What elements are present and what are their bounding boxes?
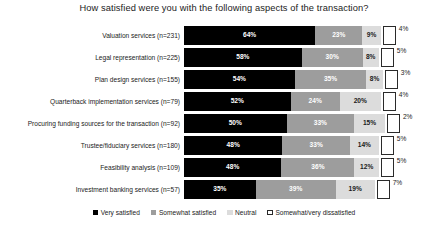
segment-value-label: 14% (358, 142, 371, 149)
segment-value-label: 54% (233, 76, 246, 83)
segment-very-satisfied: 58% (184, 48, 302, 67)
segment-value-label-dissatisfied: 3% (398, 70, 411, 89)
chart-title: How satisfied were you with the followin… (0, 3, 448, 13)
segment-somewhat-satisfied: 23% (315, 26, 362, 45)
category-label: Valuation services (n=231) (0, 32, 184, 39)
segment-very-satisfied: 50% (184, 114, 287, 133)
segment-value-label: 19% (349, 186, 362, 193)
segment-value-label: 8% (370, 76, 380, 83)
segment-very-satisfied: 35% (184, 180, 256, 199)
plot-area: Valuation services (n=231)64%23%9%4%Lega… (0, 26, 448, 202)
segment-very-satisfied: 64% (184, 26, 315, 45)
segment-value-label: 23% (332, 32, 345, 39)
bar-row: Procuring funding sources for the transa… (0, 114, 448, 133)
bar-row: Feasibility analysis (n=109)48%36%12%5% (0, 158, 448, 177)
bar-row: Plan design services (n=155)54%35%8%3% (0, 70, 448, 89)
segment-dissatisfied (377, 180, 390, 199)
segment-dissatisfied (383, 92, 396, 111)
bar-row: Valuation services (n=231)64%23%9%4% (0, 26, 448, 45)
segment-value-label-dissatisfied: 5% (394, 158, 407, 177)
category-label: Plan design services (n=155) (0, 76, 184, 83)
segment-somewhat-satisfied: 33% (287, 114, 355, 133)
segment-neutral: 20% (340, 92, 381, 111)
bar-track: 54%35%8%3% (184, 70, 448, 89)
segment-value-label-dissatisfied: 5% (394, 48, 407, 67)
segment-value-label-dissatisfied: 7% (390, 180, 403, 199)
segment-value-label-dissatisfied: 4% (396, 26, 409, 45)
segment-value-label: 33% (314, 120, 327, 127)
segment-value-label: 20% (354, 98, 367, 105)
category-label: Trustee/fiduciary services (n=180) (0, 142, 184, 149)
bar-track: 64%23%9%4% (184, 26, 448, 45)
segment-value-label: 15% (363, 120, 376, 127)
segment-dissatisfied (387, 114, 400, 133)
segment-value-label: 30% (326, 54, 339, 61)
legend-label-neutral: Neutral (235, 209, 256, 216)
segment-neutral: 9% (362, 26, 380, 45)
segment-very-satisfied: 48% (184, 158, 281, 177)
segment-neutral: 12% (354, 158, 378, 177)
segment-dissatisfied (385, 70, 398, 89)
legend-label-somewhat-satisfied: Somewhat satisfied (159, 209, 216, 216)
segment-neutral: 15% (354, 114, 385, 133)
segment-very-satisfied: 52% (184, 92, 291, 111)
segment-value-label: 24% (309, 98, 322, 105)
segment-dissatisfied (383, 26, 396, 45)
segment-value-label: 64% (243, 32, 256, 39)
segment-neutral: 8% (366, 70, 382, 89)
legend-item-dissatisfied[interactable]: Somewhat/very dissatisfied (267, 209, 355, 216)
segment-value-label: 9% (367, 32, 377, 39)
bar-row: Quarterback implementation services (n=7… (0, 92, 448, 111)
segment-value-label: 58% (236, 54, 249, 61)
bar-row: Trustee/fiduciary services (n=180)48%33%… (0, 136, 448, 155)
segment-very-satisfied: 48% (184, 136, 282, 155)
bar-track: 35%39%19%7% (184, 180, 448, 199)
segment-value-label: 33% (310, 142, 323, 149)
legend-label-dissatisfied: Somewhat/very dissatisfied (275, 209, 355, 216)
segment-somewhat-satisfied: 39% (256, 180, 336, 199)
legend-swatch-icon-very-satisfied (93, 210, 99, 216)
category-label: Procuring funding sources for the transa… (0, 120, 184, 127)
segment-somewhat-satisfied: 35% (295, 70, 367, 89)
segment-value-label: 39% (289, 186, 302, 193)
segment-value-label: 48% (226, 164, 239, 171)
legend-item-neutral[interactable]: Neutral (227, 209, 256, 216)
bar-row: Investment banking services (n=57)35%39%… (0, 180, 448, 199)
segment-somewhat-satisfied: 30% (302, 48, 363, 67)
legend-swatch-icon-somewhat-satisfied (151, 210, 157, 216)
bar-row: Legal representation (n=225)58%30%8%5% (0, 48, 448, 67)
bar-track: 48%36%12%5% (184, 158, 448, 177)
legend-swatch-icon-dissatisfied (267, 210, 273, 216)
segment-value-label-dissatisfied: 5% (394, 136, 407, 155)
segment-value-label-dissatisfied: 4% (396, 92, 409, 111)
segment-dissatisfied (381, 136, 394, 155)
segment-value-label: 48% (227, 142, 240, 149)
bar-track: 50%33%15%2% (184, 114, 448, 133)
chart-legend: Very satisfied Somewhat satisfied Neutra… (0, 209, 448, 216)
segment-neutral: 14% (350, 136, 379, 155)
bar-track: 58%30%8%5% (184, 48, 448, 67)
legend-item-somewhat-satisfied[interactable]: Somewhat satisfied (151, 209, 216, 216)
category-label: Feasibility analysis (n=109) (0, 164, 184, 171)
segment-value-label: 12% (360, 164, 373, 171)
bar-track: 52%24%20%4% (184, 92, 448, 111)
segment-somewhat-satisfied: 24% (291, 92, 340, 111)
legend-swatch-icon-neutral (227, 210, 233, 216)
segment-value-label: 35% (213, 186, 226, 193)
segment-value-label-dissatisfied: 2% (400, 114, 413, 133)
segment-value-label: 50% (229, 120, 242, 127)
segment-dissatisfied (381, 158, 394, 177)
segment-neutral: 19% (336, 180, 375, 199)
legend-item-very-satisfied[interactable]: Very satisfied (93, 209, 140, 216)
segment-neutral: 8% (363, 48, 379, 67)
segment-value-label: 8% (366, 54, 376, 61)
segment-somewhat-satisfied: 36% (281, 158, 354, 177)
category-label: Investment banking services (n=57) (0, 186, 184, 193)
segment-very-satisfied: 54% (184, 70, 295, 89)
stacked-bar-chart: How satisfied were you with the followin… (0, 0, 448, 233)
category-label: Legal representation (n=225) (0, 54, 184, 61)
segment-value-label: 35% (324, 76, 337, 83)
segment-value-label: 36% (311, 164, 324, 171)
segment-dissatisfied (381, 48, 394, 67)
segment-somewhat-satisfied: 33% (282, 136, 350, 155)
